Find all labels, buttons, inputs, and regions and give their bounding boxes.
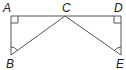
label-E: E (116, 57, 125, 70)
label-A: A (2, 1, 11, 15)
right-angle-mark-A (11, 16, 18, 23)
right-angle-mark-D (114, 16, 121, 23)
angle-mark-E (115, 47, 121, 50)
label-B: B (6, 57, 14, 70)
label-D: D (114, 1, 123, 15)
geometry-diagram: A C D B E (0, 0, 126, 70)
segment-CE (65, 16, 121, 55)
angle-mark-B (11, 47, 17, 50)
label-C: C (62, 1, 71, 15)
segment-BC (11, 16, 65, 55)
